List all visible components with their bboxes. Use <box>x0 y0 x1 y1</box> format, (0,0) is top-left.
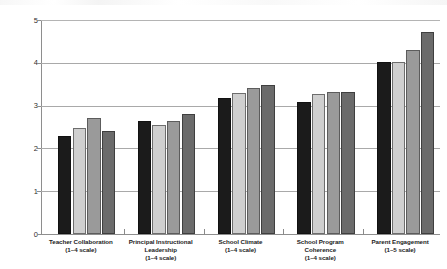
bar <box>73 128 86 234</box>
bar <box>341 92 354 234</box>
bar <box>297 102 310 234</box>
category-label: School Climate(1–4 scale) <box>195 238 287 254</box>
bar <box>232 93 245 234</box>
category-label-line: (1–5 scale) <box>354 246 446 254</box>
bar <box>312 94 325 234</box>
bar <box>392 62 405 234</box>
bar <box>421 32 434 234</box>
bar <box>377 62 390 234</box>
category-label-line: Teacher Collaboration <box>35 238 127 246</box>
category-label-line: (1–4 scale) <box>274 254 366 262</box>
plot-area <box>41 20 440 234</box>
bar <box>247 88 260 234</box>
category-label-line: (1–4 scale) <box>195 246 287 254</box>
category-label-line: Principal Instructional <box>115 238 207 246</box>
bar-group <box>138 20 195 234</box>
bar-group <box>297 20 354 234</box>
category-label: Teacher Collaboration(1–4 scale) <box>35 238 127 254</box>
bar <box>152 125 165 234</box>
bar <box>87 118 100 234</box>
x-axis-baseline <box>41 234 440 235</box>
category-label-line: School Climate <box>195 238 287 246</box>
bar <box>58 136 71 234</box>
bar <box>138 121 151 234</box>
category-label-line: Leadership <box>115 246 207 254</box>
bar <box>102 131 115 234</box>
bar <box>406 50 419 234</box>
category-label-line: (1–4 scale) <box>35 246 127 254</box>
bar-group <box>377 20 434 234</box>
category-label-line: (1–4 scale) <box>115 254 207 262</box>
bar <box>182 114 195 234</box>
bar <box>261 85 274 234</box>
category-label: Principal InstructionalLeadership(1–4 sc… <box>115 238 207 263</box>
bar-group <box>218 20 275 234</box>
category-label: School ProgramCoherence(1–4 scale) <box>274 238 366 263</box>
bar-group <box>58 20 115 234</box>
y-tick-mark-0 <box>37 234 41 235</box>
category-label-line: Coherence <box>274 246 366 254</box>
category-label: Parent Engagement(1–5 scale) <box>354 238 446 254</box>
bar <box>167 121 180 234</box>
category-label-line: School Program <box>274 238 366 246</box>
bar <box>218 98 231 234</box>
category-label-line: Parent Engagement <box>354 238 446 246</box>
bar <box>327 92 340 234</box>
bar-chart: 012345 Teacher Collaboration(1–4 scale)P… <box>0 0 447 269</box>
